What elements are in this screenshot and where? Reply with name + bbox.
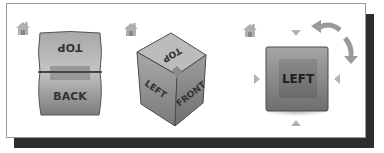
face-label-back: BACK: [53, 90, 87, 103]
viewcube-back[interactable]: TOP BACK: [36, 30, 104, 120]
rotate-cw-icon[interactable]: [344, 38, 358, 64]
arrow-left-icon[interactable]: [334, 74, 340, 84]
face-label-top: TOP: [58, 41, 83, 54]
face-label-left: LEFT: [282, 72, 315, 86]
home-icon[interactable]: [16, 21, 30, 36]
rotate-ccw-icon[interactable]: [311, 20, 340, 33]
viewcube-left[interactable]: LEFT: [248, 16, 364, 132]
arrow-down-icon[interactable]: [291, 30, 301, 36]
face-highlight: [50, 66, 90, 80]
viewcube-isometric[interactable]: TOP LEFT FRONT: [134, 30, 210, 130]
arrow-right-icon[interactable]: [254, 74, 260, 84]
arrow-up-icon[interactable]: [291, 120, 301, 126]
